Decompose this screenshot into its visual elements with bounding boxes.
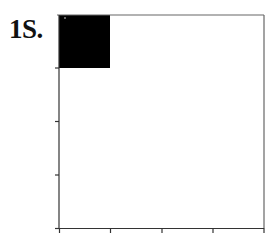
- cell-marker-dot: [64, 17, 66, 19]
- x-ticks: [60, 229, 265, 234]
- heatmap-plot: [0, 0, 274, 236]
- filled-cell: [59, 15, 110, 68]
